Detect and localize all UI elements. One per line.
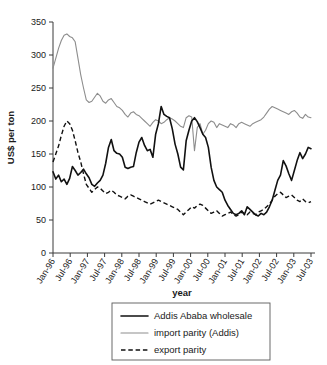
y-axis-title: US$ per ton xyxy=(5,111,16,165)
y-tick-label: 50 xyxy=(36,215,46,225)
x-axis-ticks: Jan-96Jul-96Jan-97Jul-97Jan-98Jul-98Jan-… xyxy=(34,253,315,285)
data-series-group xyxy=(53,34,311,216)
legend-label: export parity xyxy=(154,344,207,355)
y-tick-label: 100 xyxy=(31,182,46,192)
series-path xyxy=(53,106,311,216)
legend-label: import parity (Addis) xyxy=(154,327,239,338)
chart-figure: 050100150200250300350 Jan-96Jul-96Jan-97… xyxy=(0,0,327,365)
y-tick-label: 300 xyxy=(31,50,46,60)
legend-label: Addis Ababa wholesale xyxy=(154,310,252,321)
price-trend-line-chart: 050100150200250300350 Jan-96Jul-96Jan-97… xyxy=(0,0,327,365)
y-tick-label: 0 xyxy=(41,248,46,258)
y-tick-label: 200 xyxy=(31,116,46,126)
y-tick-label: 350 xyxy=(31,17,46,27)
x-tick-label: Jan-96 xyxy=(34,257,57,286)
chart-legend: Addis Ababa wholesaleimport parity (Addi… xyxy=(112,303,270,360)
series-path xyxy=(53,34,311,151)
x-axis-title: year xyxy=(172,287,192,298)
y-axis-ticks: 050100150200250300350 xyxy=(31,17,53,258)
y-tick-label: 250 xyxy=(31,83,46,93)
y-tick-label: 150 xyxy=(31,149,46,159)
x-tick-label: Jul-03 xyxy=(294,257,315,283)
